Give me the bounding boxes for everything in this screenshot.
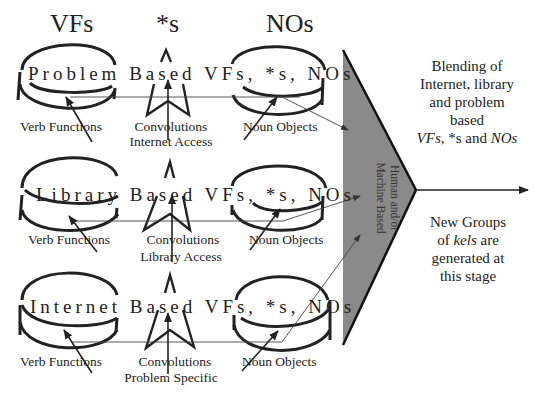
verb-functions-label: Verb Functions: [20, 119, 102, 134]
row-title: Problem Based VFs, *s, NOs: [28, 63, 354, 84]
are-text: are: [477, 232, 499, 248]
convolutions-sublabel: Library Access: [140, 249, 221, 264]
blending-line3: and problem: [429, 94, 505, 110]
blending-line1: Blending of: [431, 58, 502, 74]
funnel-label-line1: Human and/or: [389, 165, 401, 231]
sep-text: , *s and: [441, 130, 491, 146]
blending-line2: Internet, library: [420, 76, 515, 92]
row-title: Internet Based VFs, *s, NOs: [30, 296, 355, 317]
convolutions-label: Convolutions: [139, 354, 212, 369]
convolutions-label: Convolutions: [135, 119, 208, 134]
blending-description: Blending of Internet, library and proble…: [417, 58, 518, 146]
convolutions-sublabel: Problem Specific: [124, 370, 217, 385]
new-groups-line4: this stage: [440, 268, 497, 284]
funnel-label-line2: Machine Based: [375, 162, 387, 233]
of-text: of: [437, 232, 453, 248]
kel-generation-diagram: VFs *s NOs Human and/or Machine Based: [0, 0, 534, 401]
kels-italic: kels: [453, 232, 476, 248]
noun-objects-label: Noun Objects: [243, 119, 318, 134]
header-nos: NOs: [266, 9, 314, 38]
vfs-italic: VFs: [417, 130, 441, 146]
blending-line4: based: [450, 112, 485, 128]
row-library: Library Based VFs, *s, NOs Verb Function…: [20, 158, 360, 264]
verb-functions-label: Verb Functions: [20, 354, 102, 369]
convolutions-sublabel: Internet Access: [130, 134, 213, 149]
blending-line5: VFs, *s and NOs: [417, 130, 518, 146]
verb-functions-label: Verb Functions: [28, 232, 110, 247]
new-groups-description: New Groups of kels are generated at this…: [430, 214, 506, 284]
new-groups-line3: generated at: [432, 250, 506, 266]
new-groups-line2: of kels are: [437, 232, 499, 248]
convolutions-label: Convolutions: [147, 232, 220, 247]
header-vfs: VFs: [50, 9, 93, 38]
new-groups-line1: New Groups: [430, 214, 506, 230]
nos-italic: NOs: [490, 130, 518, 146]
noun-objects-label: Noun Objects: [242, 354, 317, 369]
noun-objects-label: Noun Objects: [249, 232, 324, 247]
header-convolutions: *s: [156, 9, 179, 38]
row-problem: Problem Based VFs, *s, NOs Verb Function…: [18, 45, 354, 149]
row-title: Library Based VFs, *s, NOs: [36, 184, 355, 205]
